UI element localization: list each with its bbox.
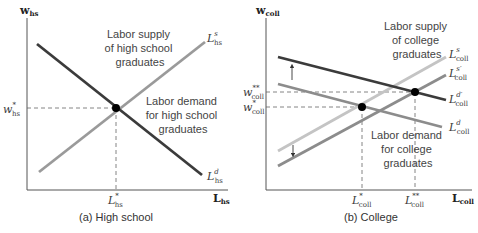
y-axis-label: whs [19,4,39,18]
demand-curve-label: Ldhs [206,168,223,185]
caption-high-school: (a) High school [79,211,153,223]
supply-annotation: Labor supply of college graduates [384,20,450,60]
panel-high-school: whs Lhs w*hs L*hs Lshs Ldhs Labor supply… [3,4,230,223]
supply-curve-label: Lscoll [448,46,469,63]
demand-shifted-curve-label: Ld′coll [448,91,469,108]
equilibrium-point-new [411,88,419,96]
l-star-label: L*hs [107,192,123,209]
l-star-label: L*coll [351,192,372,209]
panel-college: wcoll Lcoll w**coll w*coll L*coll L**col… [243,4,474,223]
demand-curve-label: Ldcoll [448,119,470,136]
equilibrium-point-original [358,103,366,111]
x-axis-label: Lcoll [452,192,474,206]
equilibrium-point [112,104,120,112]
l-star2-label: L**coll [404,192,425,209]
y-axis-label: wcoll [255,4,280,18]
supply-annotation: Labor supply of high school graduates [105,28,176,68]
supply-curve-label: Lshs [206,30,222,47]
demand-curve-shifted [278,57,446,100]
w-star-label: w*coll [243,99,265,116]
caption-college: (b) College [344,211,398,223]
x-axis-label: Lhs [213,192,230,206]
demand-annotation: Labor demand for college graduates [371,129,445,169]
labor-market-diagram: whs Lhs w*hs L*hs Lshs Ldhs Labor supply… [0,0,478,233]
demand-annotation: Labor demand for high school graduates [146,95,221,135]
w-star-label: w*hs [3,101,20,118]
supply-shifted-curve-label: Ls′coll [448,65,468,82]
